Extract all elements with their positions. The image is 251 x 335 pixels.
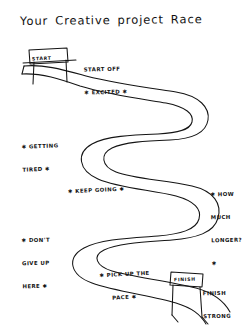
finish-gate-post-right (200, 287, 202, 317)
annotation-line: MUCH (211, 214, 242, 222)
annotation-how-much-longer: ✱ HOW MUCH LONGER? ✱ (210, 176, 243, 283)
annotation-line: PACE ✱ (100, 293, 151, 303)
annotation-line: ✱ GETTING (21, 143, 58, 152)
annotation-pick-up-the-pace: ✱ PICK UP THE PACE ✱ (98, 255, 151, 318)
annotation-line: START OFF (84, 66, 127, 75)
finish-gate-post-left (172, 285, 173, 315)
start-gate-label: START (32, 55, 52, 61)
race-diagram-canvas: YourCreativeprojectRace (0, 0, 251, 335)
annotation-keep-going: ✱ KEEP GOING ✱ (67, 171, 125, 211)
annotation-finish-strong: FINISH STRONG (202, 275, 231, 335)
finish-gate-label: FINISH (174, 277, 196, 283)
annotation-line: ✱ PICK UP THE (99, 270, 150, 280)
annotation-line: ✱ HOW (210, 191, 241, 199)
annotation-line: GIVE UP (22, 260, 51, 268)
road-start-cap (22, 66, 24, 74)
annotation-line: ✱ DON'T (22, 237, 51, 245)
annotation-line: HERE ✱ (22, 282, 51, 290)
annotation-line: TIRED ✱ (22, 165, 59, 174)
annotation-getting-tired: ✱ GETTING TIRED ✱ (21, 127, 60, 189)
annotation-line: ✱ KEEP GOING ✱ (68, 186, 125, 196)
annotation-dont-give-up-here: ✱ DON'T GIVE UP HERE ✱ (21, 222, 51, 306)
annotation-line: STRONG (203, 313, 231, 321)
annotation-start-off-excited: START OFF ✱ EXCITED ✱ (83, 50, 128, 112)
annotation-line: FINISH (203, 290, 231, 298)
annotation-line: ✱ EXCITED ✱ (84, 88, 127, 97)
start-gate-post-right (66, 60, 67, 82)
annotation-line: LONGER? (211, 236, 242, 244)
annotation-line: ✱ (212, 259, 243, 267)
finish-gate-foot-left (172, 315, 178, 322)
